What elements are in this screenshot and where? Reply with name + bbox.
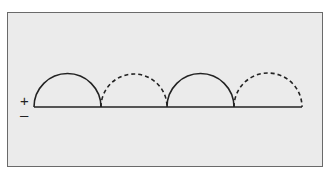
solid-half-cycle-arc bbox=[34, 74, 101, 107]
waveform bbox=[0, 0, 335, 177]
solid-half-cycle-arc bbox=[167, 74, 234, 108]
dashed-half-cycle-arc bbox=[101, 74, 167, 107]
dashed-half-cycle-arc bbox=[234, 73, 302, 107]
